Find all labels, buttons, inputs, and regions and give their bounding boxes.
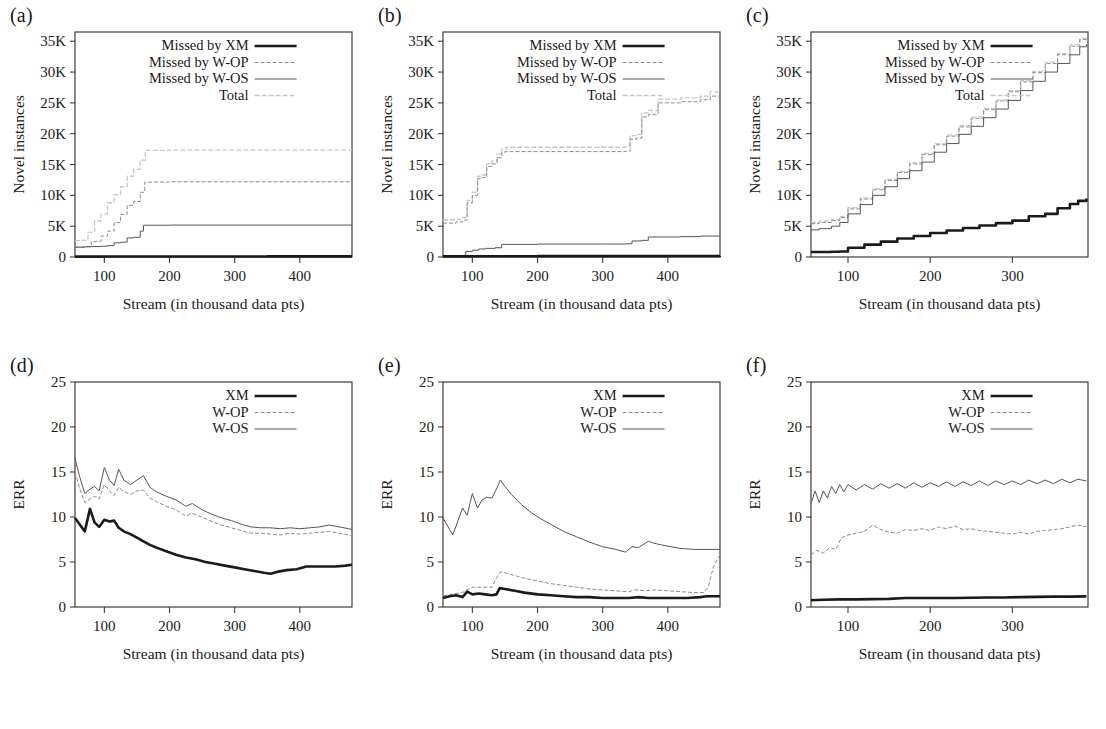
legend-label: Total <box>219 87 249 103</box>
x-tick-label: 400 <box>289 268 312 284</box>
y-tick-label: 0 <box>427 599 435 615</box>
series-line-thin-solid <box>811 479 1086 503</box>
y-tick-label: 25K <box>408 95 434 111</box>
plot-area-f: 0510152025100200300Stream (in thousand d… <box>736 350 1102 715</box>
plot-area-d: 0510152025100200300400Stream (in thousan… <box>0 350 366 715</box>
y-tick-label: 30K <box>40 64 66 80</box>
legend-label: Missed by W-OS <box>517 70 617 86</box>
x-tick-label: 400 <box>657 618 680 634</box>
chart-panel-f: (f)0510152025100200300Stream (in thousan… <box>736 350 1102 715</box>
y-tick-label: 15K <box>776 157 802 173</box>
legend-label: Missed by XM <box>898 37 985 53</box>
y-tick-label: 25 <box>51 374 66 390</box>
y-tick-label: 35K <box>776 33 802 49</box>
y-tick-label: 15 <box>419 464 434 480</box>
x-tick-label: 300 <box>1001 618 1024 634</box>
chart-panel-d: (d)0510152025100200300400Stream (in thou… <box>0 350 366 715</box>
legend-label: XM <box>593 387 616 403</box>
y-tick-label: 30K <box>408 64 434 80</box>
y-tick-label: 10K <box>40 187 66 203</box>
x-tick-label: 300 <box>223 268 246 284</box>
series-line-dashed <box>811 525 1086 555</box>
series-line-thin-solid <box>443 480 720 552</box>
x-tick-label: 100 <box>93 618 116 634</box>
legend-label: Missed by W-OP <box>885 54 985 70</box>
y-tick-label: 20K <box>408 126 434 142</box>
x-tick-label: 200 <box>919 268 942 284</box>
chart-panel-b: (b)05K10K15K20K25K30K35K100200300400Stre… <box>368 0 734 365</box>
plot-area-b: 05K10K15K20K25K30K35K100200300400Stream … <box>368 0 734 365</box>
x-tick-label: 300 <box>591 268 614 284</box>
chart-panel-e: (e)0510152025100200300400Stream (in thou… <box>368 350 734 715</box>
x-tick-label: 100 <box>461 268 484 284</box>
y-tick-label: 25 <box>787 374 802 390</box>
y-tick-label: 15 <box>787 464 802 480</box>
legend-label: XM <box>225 387 248 403</box>
series-line-thick-solid <box>75 509 352 574</box>
legend-label: W-OS <box>580 420 616 436</box>
y-tick-label: 0 <box>427 249 435 265</box>
series-line-light-dashed <box>443 91 720 220</box>
plot-area-e: 0510152025100200300400Stream (in thousan… <box>368 350 734 715</box>
legend-label: W-OP <box>212 404 248 420</box>
figure-root: (a)05K10K15K20K25K30K35K100200300400Stre… <box>0 0 1106 729</box>
y-tick-label: 35K <box>40 33 66 49</box>
legend-label: XM <box>961 387 984 403</box>
legend-label: Missed by W-OS <box>885 70 985 86</box>
y-axis-title: Novel instances <box>378 95 395 194</box>
y-tick-label: 5 <box>795 554 803 570</box>
x-axis-title: Stream (in thousand data pts) <box>491 295 673 313</box>
series-line-dashed <box>75 182 352 247</box>
chart-panel-c: (c)05K10K15K20K25K30K35K100200300Stream … <box>736 0 1102 365</box>
series-line-thin-solid <box>75 225 352 247</box>
y-tick-label: 0 <box>795 249 803 265</box>
x-axis-title: Stream (in thousand data pts) <box>491 645 673 663</box>
series-line-light-dashed <box>75 150 352 241</box>
y-tick-label: 15K <box>40 157 66 173</box>
series-line-thin-solid <box>75 459 352 530</box>
x-axis-title: Stream (in thousand data pts) <box>123 645 305 663</box>
y-tick-label: 15 <box>51 464 66 480</box>
legend-label: Missed by W-OS <box>149 70 249 86</box>
y-axis-title: ERR <box>10 479 27 510</box>
x-tick-label: 200 <box>919 618 942 634</box>
series-line-thick-solid <box>811 198 1086 252</box>
y-tick-label: 0 <box>59 599 67 615</box>
y-tick-label: 10 <box>787 509 802 525</box>
y-tick-label: 25K <box>40 95 66 111</box>
legend-label: Missed by W-OP <box>517 54 617 70</box>
x-axis-title: Stream (in thousand data pts) <box>859 295 1041 313</box>
series-line-thin-solid <box>443 235 720 256</box>
x-tick-label: 200 <box>526 618 549 634</box>
legend-label: W-OS <box>212 420 248 436</box>
y-tick-label: 25K <box>776 95 802 111</box>
y-tick-label: 20K <box>776 126 802 142</box>
y-tick-label: 15K <box>408 157 434 173</box>
plot-area-a: 05K10K15K20K25K30K35K100200300400Stream … <box>0 0 366 365</box>
x-tick-label: 100 <box>93 268 116 284</box>
y-tick-label: 10K <box>408 187 434 203</box>
x-tick-label: 200 <box>526 268 549 284</box>
y-tick-label: 0 <box>795 599 803 615</box>
x-axis-title: Stream (in thousand data pts) <box>859 645 1041 663</box>
x-tick-label: 400 <box>289 618 312 634</box>
series-line-dashed <box>443 555 720 596</box>
x-tick-label: 100 <box>837 618 860 634</box>
y-axis-title: Novel instances <box>10 95 27 194</box>
y-tick-label: 20 <box>51 419 66 435</box>
x-tick-label: 300 <box>1001 268 1024 284</box>
y-tick-label: 5K <box>48 218 67 234</box>
series-line-thick-solid <box>443 588 720 598</box>
y-tick-label: 5 <box>59 554 67 570</box>
y-tick-label: 10 <box>51 509 66 525</box>
y-axis-title: ERR <box>746 479 763 510</box>
legend-label: Missed by XM <box>530 37 617 53</box>
x-tick-label: 200 <box>158 618 181 634</box>
x-axis-title: Stream (in thousand data pts) <box>123 295 305 313</box>
y-tick-label: 20K <box>40 126 66 142</box>
legend-label: Missed by XM <box>162 37 249 53</box>
y-tick-label: 5K <box>416 218 435 234</box>
x-tick-label: 100 <box>461 618 484 634</box>
y-tick-label: 5K <box>784 218 803 234</box>
y-tick-label: 20 <box>787 419 802 435</box>
